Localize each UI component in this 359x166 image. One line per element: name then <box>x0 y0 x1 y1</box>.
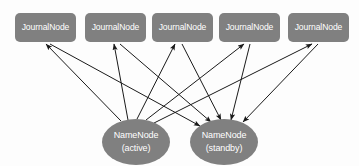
edge-arrow <box>46 44 121 121</box>
journalnode-3[interactable]: JournalNode <box>152 13 213 42</box>
nodes-layer: JournalNodeJournalNodeJournalNodeJournal… <box>15 13 349 165</box>
journalnode-label: JournalNode <box>22 22 70 32</box>
edge-arrow <box>50 44 200 126</box>
namenode-ellipse[interactable] <box>190 119 258 165</box>
journalnode-2[interactable]: JournalNode <box>85 13 146 42</box>
journalnode-5[interactable]: JournalNode <box>288 13 349 42</box>
namenode-standby[interactable]: NameNode(standby) <box>190 119 258 165</box>
edge-arrow <box>231 44 250 120</box>
namenode-label-state: (standby) <box>206 143 243 153</box>
diagram-canvas: JournalNodeJournalNodeJournalNodeJournal… <box>0 0 359 166</box>
edges-layer <box>46 44 318 126</box>
journalnode-label: JournalNode <box>92 22 140 32</box>
edge-arrow <box>137 44 175 119</box>
diagram-svg: JournalNodeJournalNodeJournalNodeJournal… <box>0 0 359 166</box>
journalnode-label: JournalNode <box>295 22 343 32</box>
edge-arrow <box>243 44 318 122</box>
namenode-ellipse[interactable] <box>102 119 170 165</box>
namenode-label-state: (active) <box>122 143 151 153</box>
edge-arrow <box>182 44 221 120</box>
journalnode-label: JournalNode <box>226 22 274 32</box>
edge-arrow <box>120 44 211 122</box>
namenode-active[interactable]: NameNode(active) <box>102 119 170 165</box>
namenode-label-primary: NameNode <box>202 130 247 140</box>
namenode-label-primary: NameNode <box>114 130 159 140</box>
journalnode-4[interactable]: JournalNode <box>219 13 280 42</box>
edge-arrow <box>114 44 128 120</box>
journalnode-1[interactable]: JournalNode <box>15 13 76 42</box>
journalnode-label: JournalNode <box>159 22 207 32</box>
